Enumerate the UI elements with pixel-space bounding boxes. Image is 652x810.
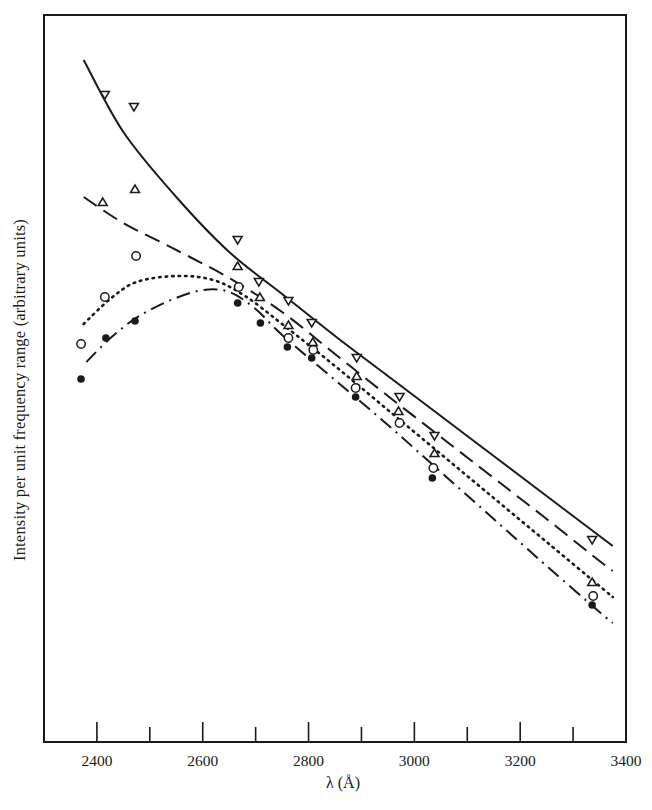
marker-filled-circle: [284, 343, 292, 351]
curve-filled-circle: [86, 289, 612, 623]
marker-up-triangle: [98, 198, 107, 206]
marker-filled-circle: [131, 317, 139, 325]
marker-open-circle: [351, 384, 359, 392]
marker-open-circle: [395, 419, 403, 427]
marker-open-circle: [589, 592, 597, 600]
marker-filled-circle: [352, 393, 360, 401]
x-tick-label: 2400: [81, 752, 112, 769]
marker-open-circle: [77, 340, 85, 348]
marker-down-triangle: [588, 537, 597, 545]
chart-canvas: 240026002800300032003400: [0, 0, 652, 810]
curve-open-circle: [84, 276, 613, 597]
marker-open-circle: [309, 346, 317, 354]
marker-down-triangle: [254, 279, 263, 287]
fit-curves: [84, 60, 613, 623]
marker-filled-circle: [257, 319, 265, 327]
data-markers: [77, 92, 598, 609]
marker-down-triangle: [307, 320, 316, 328]
x-tick-label: 2600: [187, 752, 218, 769]
marker-filled-circle: [77, 375, 85, 383]
marker-open-circle: [101, 293, 109, 301]
x-tick-label: 3200: [505, 752, 536, 769]
marker-filled-circle: [234, 299, 242, 307]
marker-down-triangle: [352, 355, 361, 363]
x-tick-label: 3000: [399, 752, 430, 769]
marker-down-triangle: [129, 104, 138, 112]
marker-open-circle: [429, 464, 437, 472]
marker-down-triangle: [430, 433, 439, 441]
marker-filled-circle: [308, 354, 316, 362]
y-axis-label: Intensity per unit frequency range (arbi…: [10, 150, 30, 630]
marker-open-circle: [132, 252, 140, 260]
marker-filled-circle: [429, 474, 437, 482]
x-tick-label: 3400: [611, 752, 642, 769]
marker-up-triangle: [394, 407, 403, 415]
marker-filled-circle: [102, 334, 110, 342]
marker-up-triangle: [352, 372, 361, 380]
curve-up-triangle: [84, 197, 613, 571]
marker-up-triangle: [284, 321, 293, 329]
x-axis-label-text: λ (Å): [326, 774, 360, 791]
x-axis-tick-labels: 240026002800300032003400: [81, 752, 641, 769]
x-axis-label: λ (Å): [0, 774, 652, 792]
x-tick-label: 2800: [293, 752, 324, 769]
x-axis-ticks: [97, 722, 573, 742]
marker-down-triangle: [233, 237, 242, 245]
marker-open-circle: [284, 334, 292, 342]
marker-open-circle: [235, 283, 243, 291]
marker-up-triangle: [588, 578, 597, 586]
marker-filled-circle: [588, 601, 596, 609]
marker-down-triangle: [395, 394, 404, 402]
plot-frame: [44, 15, 626, 742]
marker-up-triangle: [131, 185, 140, 193]
